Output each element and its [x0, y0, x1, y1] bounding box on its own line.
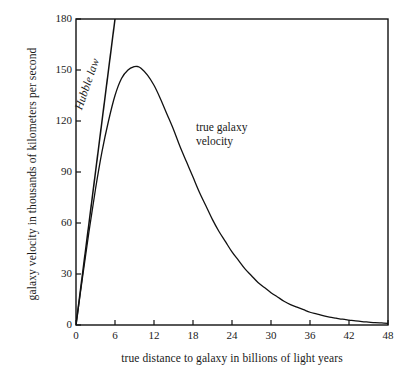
y-tick-label: 90 — [46, 166, 72, 177]
true-galaxy-velocity-label: true galaxy velocity — [196, 120, 247, 148]
x-tick-label: 36 — [295, 330, 325, 341]
x-tick-label: 24 — [217, 330, 247, 341]
y-tick-label: 0 — [46, 319, 72, 330]
x-tick-label: 12 — [139, 330, 169, 341]
x-tick-label: 18 — [178, 330, 208, 341]
x-tick-label: 6 — [100, 330, 130, 341]
plot-frame — [76, 19, 388, 325]
x-tick-label-group: 0612182430364248 — [0, 330, 419, 346]
y-tick-label: 30 — [46, 268, 72, 279]
y-axis-title: galaxy velocity in thousands of kilomete… — [26, 14, 38, 334]
y-tick-label: 180 — [46, 13, 72, 24]
y-tick-label-group: 0306090120150180 — [44, 0, 72, 378]
x-tick-label: 48 — [373, 330, 403, 341]
x-axis-title: true distance to galaxy in billions of l… — [76, 352, 388, 364]
x-tick-label: 0 — [61, 330, 91, 341]
y-tick-label: 150 — [46, 64, 72, 75]
y-tick-label: 120 — [46, 115, 72, 126]
x-tick-label: 42 — [334, 330, 364, 341]
true-galaxy-velocity-label-line1: true galaxy — [196, 120, 247, 134]
galaxy-velocity-chart: galaxy velocity in thousands of kilomete… — [0, 0, 419, 378]
x-tick-label: 30 — [256, 330, 286, 341]
y-tick-label: 60 — [46, 217, 72, 228]
true-galaxy-velocity-label-line2: velocity — [196, 134, 247, 148]
